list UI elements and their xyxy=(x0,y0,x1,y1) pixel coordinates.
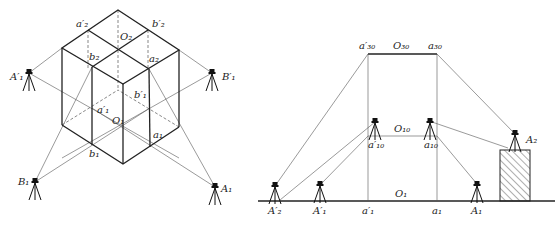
label-a1: a₁ xyxy=(432,205,442,216)
instrument-a10-prime xyxy=(369,118,381,140)
label-A1: A₁ xyxy=(220,183,232,194)
right-elevation-figure: a′₃₀ O₃₀ a₃₀ O₁₀ a′₁₀ a₁₀ A₂ O₁ A′₂ A′₁ … xyxy=(258,40,555,216)
label-A1-prime: A′₁ xyxy=(9,71,24,82)
label-a30: a₃₀ xyxy=(428,40,442,51)
instrument-A1-prime xyxy=(314,181,326,203)
label-A1-prime: A′₁ xyxy=(312,205,327,216)
label-a1-prime: a′₁ xyxy=(97,104,109,115)
instrument-a10 xyxy=(424,118,436,140)
instrument-A2 xyxy=(509,130,521,152)
diagram-canvas: a′₂ b′₂ O₂ b₂ a₂ A′₁ B′₁ a′₁ b′₁ O₁ a₁ b… xyxy=(0,0,559,228)
label-O30: O₃₀ xyxy=(393,40,409,51)
label-O2: O₂ xyxy=(120,31,132,42)
label-b2: b₂ xyxy=(89,51,99,62)
label-b1-prime: b′₁ xyxy=(134,89,147,100)
label-A1: A₁ xyxy=(470,205,482,216)
instrument-B1-prime xyxy=(206,69,218,91)
label-a2-prime: a′₂ xyxy=(76,18,88,29)
label-O1: O₁ xyxy=(395,188,407,199)
label-a1-prime: a′₁ xyxy=(362,205,374,216)
label-O10: O₁₀ xyxy=(394,123,410,134)
label-B1-prime: B′₁ xyxy=(221,71,236,82)
label-a30-prime: a′₃₀ xyxy=(359,40,375,51)
left-isometric-figure: a′₂ b′₂ O₂ b₂ a₂ A′₁ B′₁ a′₁ b′₁ O₁ a₁ b… xyxy=(9,10,236,205)
label-O1: O₁ xyxy=(112,115,124,126)
label-a10-prime: a′₁₀ xyxy=(368,139,384,150)
label-A2: A₂ xyxy=(525,134,537,145)
instrument-A1 xyxy=(209,183,221,205)
label-a10: a₁₀ xyxy=(424,139,438,150)
instrument-B1 xyxy=(29,178,41,200)
label-a2: a₂ xyxy=(149,53,159,64)
label-b1: b₁ xyxy=(89,148,99,159)
label-a1: a₁ xyxy=(153,129,163,140)
label-b2-prime: b′₂ xyxy=(152,18,165,29)
building xyxy=(500,150,530,201)
label-A2-prime: A′₂ xyxy=(267,205,282,216)
instrument-A1 xyxy=(471,181,483,203)
instrument-A1-prime xyxy=(23,69,35,91)
label-B1: B₁ xyxy=(17,176,29,187)
